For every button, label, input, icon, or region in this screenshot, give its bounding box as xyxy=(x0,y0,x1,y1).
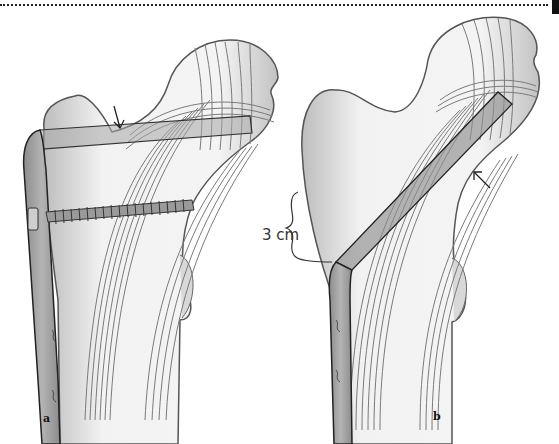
measurement-label: 3 cm xyxy=(262,226,299,244)
panel-b-femur xyxy=(286,17,539,444)
panel-label-a: a xyxy=(43,412,50,425)
panel-a-femur xyxy=(24,40,278,444)
panel-label-b: b xyxy=(433,410,441,423)
femur-illustration xyxy=(0,0,559,444)
